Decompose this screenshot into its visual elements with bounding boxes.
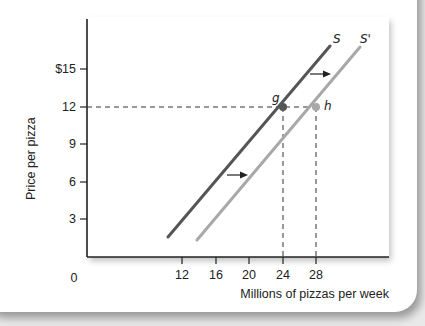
label-s: S <box>333 32 341 46</box>
origin-label: 0 <box>71 271 78 285</box>
x-tick-16: 16 <box>209 268 223 282</box>
y-ticks <box>80 69 87 219</box>
supply-curve-s-prime <box>197 47 360 240</box>
label-s-prime: S' <box>360 32 371 46</box>
point-g <box>279 103 287 111</box>
y-tick-3: 3 <box>69 212 76 226</box>
x-tick-12: 12 <box>175 268 189 282</box>
y-tick-9: 9 <box>69 137 76 151</box>
x-tick-20: 20 <box>242 268 256 282</box>
label-g: g <box>272 91 280 105</box>
y-axis-title: Price per pizza <box>24 117 38 200</box>
point-h <box>312 103 320 111</box>
shift-arrow-lower <box>227 172 248 179</box>
x-tick-28: 28 <box>309 268 323 282</box>
supply-curve-s <box>168 46 330 237</box>
label-h: h <box>324 99 332 113</box>
supply-shift-chart: $15 12 9 6 3 12 16 20 24 28 0 Millions o… <box>0 0 425 326</box>
x-axis-title: Millions of pizzas per week <box>240 287 389 301</box>
x-tick-24: 24 <box>276 268 290 282</box>
y-tick-6: 6 <box>69 175 76 189</box>
shift-arrow-upper <box>310 71 331 78</box>
arrow-right-icon <box>240 172 248 179</box>
y-tick-15: $15 <box>55 62 76 76</box>
arrow-right-icon <box>323 71 331 78</box>
x-ticks <box>182 257 316 264</box>
y-tick-12: 12 <box>62 100 76 114</box>
